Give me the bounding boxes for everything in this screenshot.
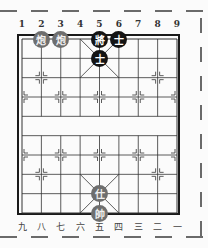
- red-piece-炮[interactable]: 炮: [33, 31, 50, 48]
- red-piece-炮[interactable]: 炮: [52, 31, 69, 48]
- black-piece-士[interactable]: 士: [91, 50, 108, 67]
- red-piece-帥[interactable]: 帥: [91, 205, 108, 222]
- piece-label: 帥: [95, 206, 105, 221]
- black-piece-將[interactable]: 將: [91, 31, 108, 48]
- piece-label: 士: [114, 32, 124, 47]
- piece-label: 將: [95, 32, 105, 47]
- piece-label: 仕: [95, 186, 105, 201]
- piece-label: 炮: [36, 32, 46, 47]
- black-piece-士[interactable]: 士: [110, 31, 127, 48]
- piece-label: 炮: [56, 32, 66, 47]
- piece-label: 士: [95, 51, 105, 66]
